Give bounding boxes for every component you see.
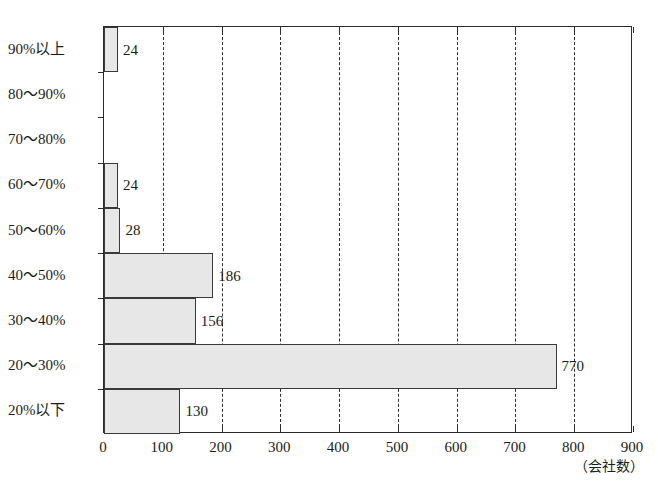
bar-value-label: 130 bbox=[185, 404, 208, 419]
bar[interactable] bbox=[104, 27, 118, 72]
category-label-0: 90%以上 bbox=[3, 41, 103, 56]
y-tick bbox=[98, 72, 104, 73]
x-tick-label-400: 400 bbox=[327, 438, 350, 456]
category-label-5: 40〜50% bbox=[3, 267, 103, 282]
bar-row: 24 bbox=[104, 27, 631, 72]
bar-row: 130 bbox=[104, 389, 631, 434]
bar[interactable] bbox=[104, 389, 180, 434]
axis-unit-note: （会社数） bbox=[574, 459, 644, 475]
bar-row: 24 bbox=[104, 163, 631, 208]
bar-row: 28 bbox=[104, 208, 631, 253]
category-label-1: 80〜90% bbox=[3, 86, 103, 101]
y-tick bbox=[98, 344, 104, 345]
x-tick-label-300: 300 bbox=[268, 438, 291, 456]
x-axis-tick-labels: 0100200300400500600700800900 bbox=[0, 438, 658, 460]
x-tick-900 bbox=[633, 27, 634, 33]
x-tick-label-0: 0 bbox=[99, 438, 107, 456]
bar-chart-figure: 90%以上80〜90%70〜80%60〜70%50〜60%40〜50%30〜40… bbox=[0, 0, 658, 494]
bar-value-label: 156 bbox=[201, 313, 224, 328]
bar-value-label: 770 bbox=[562, 359, 585, 374]
y-tick bbox=[98, 389, 104, 390]
y-tick bbox=[98, 208, 104, 209]
category-axis: 90%以上80〜90%70〜80%60〜70%50〜60%40〜50%30〜40… bbox=[0, 26, 103, 433]
bar-row bbox=[104, 117, 631, 162]
x-tick-label-100: 100 bbox=[151, 438, 174, 456]
category-label-3: 60〜70% bbox=[3, 177, 103, 192]
plot-area: 242428186156770130 bbox=[103, 26, 632, 433]
bar-value-label: 24 bbox=[123, 178, 138, 193]
y-tick bbox=[98, 298, 104, 299]
category-label-2: 70〜80% bbox=[3, 132, 103, 147]
bar[interactable] bbox=[104, 163, 118, 208]
bar-value-label: 24 bbox=[123, 42, 138, 57]
bar[interactable] bbox=[104, 253, 213, 298]
x-tick-900 bbox=[633, 426, 634, 432]
y-tick bbox=[98, 253, 104, 254]
bar-row: 770 bbox=[104, 344, 631, 389]
bar[interactable] bbox=[104, 344, 557, 389]
category-label-8: 20%以下 bbox=[3, 403, 103, 418]
bar-row: 156 bbox=[104, 298, 631, 343]
x-tick-label-200: 200 bbox=[209, 438, 232, 456]
bar-row bbox=[104, 72, 631, 117]
x-tick-label-600: 600 bbox=[444, 438, 467, 456]
bar-value-label: 186 bbox=[218, 268, 241, 283]
x-tick-label-800: 800 bbox=[562, 438, 585, 456]
bar[interactable] bbox=[104, 208, 120, 253]
x-tick-label-500: 500 bbox=[386, 438, 409, 456]
bar[interactable] bbox=[104, 298, 196, 343]
category-label-6: 30〜40% bbox=[3, 312, 103, 327]
y-tick bbox=[98, 117, 104, 118]
x-tick-label-900: 900 bbox=[621, 438, 644, 456]
y-tick bbox=[98, 163, 104, 164]
category-label-7: 20〜30% bbox=[3, 358, 103, 373]
category-label-4: 50〜60% bbox=[3, 222, 103, 237]
x-tick-label-700: 700 bbox=[503, 438, 526, 456]
bar-value-label: 28 bbox=[125, 223, 140, 238]
bar-row: 186 bbox=[104, 253, 631, 298]
